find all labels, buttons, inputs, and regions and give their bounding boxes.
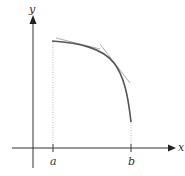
tick-label-b: b [128,155,135,168]
y-axis-label: y [28,3,36,16]
concave-down-curve [52,41,131,122]
x-axis-arrow-icon [168,145,176,152]
diagram-canvas: y x a b [0,0,185,176]
y-axis-arrow-icon [30,15,37,24]
x-axis-label: x [178,141,185,154]
tick-label-a: a [50,155,57,168]
